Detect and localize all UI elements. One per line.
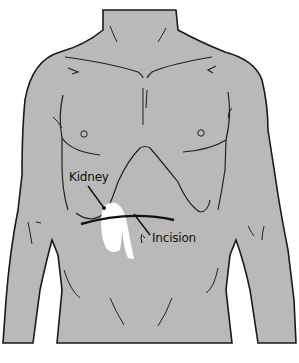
kidney-leader-dot bbox=[102, 206, 106, 210]
kidney-label: Kidney bbox=[69, 170, 109, 184]
incision-label: Incision bbox=[152, 231, 196, 245]
torso-silhouette bbox=[3, 10, 296, 343]
torso-illustration bbox=[0, 0, 299, 363]
